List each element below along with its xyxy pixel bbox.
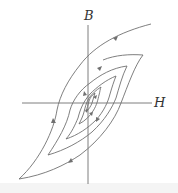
arrow-icon <box>97 66 102 71</box>
b-axis-label: B <box>84 8 94 23</box>
inner-loop <box>66 76 116 139</box>
arrow-icon <box>83 91 87 96</box>
h-axis-label: H <box>154 95 165 110</box>
hysteresis-diagram <box>0 0 178 193</box>
outer-lower-branch <box>19 55 143 179</box>
arrow-icon <box>68 158 73 163</box>
